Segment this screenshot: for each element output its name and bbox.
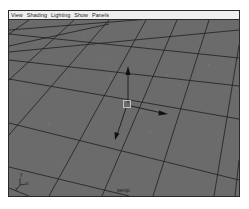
floor-speckles: [23, 34, 219, 163]
menu-lighting[interactable]: Lighting: [51, 11, 70, 19]
menu-panels[interactable]: Panels: [92, 11, 109, 19]
x-axis-arrow-icon[interactable]: [159, 111, 169, 116]
center-handle-icon[interactable]: [124, 101, 131, 108]
perspective-panel: View Shading Lighting Show Panels: [8, 10, 240, 197]
perspective-grid: [9, 20, 239, 196]
axis-y-label: y: [20, 171, 23, 177]
3d-viewport[interactable]: y x z persp: [9, 20, 239, 196]
axis-z-label: z: [15, 186, 18, 192]
camera-name-label: persp: [117, 187, 130, 193]
grid-lines: [9, 20, 239, 196]
menu-show[interactable]: Show: [74, 11, 88, 19]
y-axis-arrow-icon[interactable]: [126, 66, 131, 75]
axis-x-label: x: [26, 180, 29, 186]
panel-menubar: View Shading Lighting Show Panels: [9, 11, 239, 20]
menu-view[interactable]: View: [11, 11, 23, 19]
menu-shading[interactable]: Shading: [27, 11, 47, 19]
axis-indicator-icon: [17, 178, 26, 189]
z-axis-arrow-icon[interactable]: [115, 132, 120, 140]
